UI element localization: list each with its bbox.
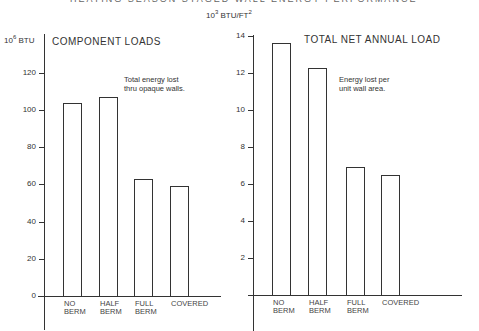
right-y-axis (253, 35, 254, 331)
category-label: NO BERM (64, 300, 86, 316)
y-tick-label: 4 (223, 216, 245, 225)
category-label: NO BERM (273, 299, 295, 315)
bar-full-berm (346, 167, 365, 295)
unit-text: BTU (16, 36, 34, 45)
y-tick (248, 147, 253, 148)
y-tick (248, 221, 253, 222)
y-tick-label: 40 (14, 217, 36, 226)
bar-half-berm (99, 97, 118, 296)
y-tick (248, 110, 253, 111)
annotation-line: Energy lost per (339, 75, 389, 84)
right-annotation: Energy lost per unit wall area. (339, 75, 389, 93)
left-y-axis (44, 34, 45, 330)
category-label: COVERED (171, 300, 208, 308)
right-x-axis (248, 295, 462, 296)
y-tick (39, 73, 44, 74)
category-label: HALF BERM (100, 300, 122, 316)
y-tick-label: 100 (14, 105, 36, 114)
bar-no-berm (63, 103, 82, 296)
right-chart-title: TOTAL NET ANNUAL LOAD (304, 34, 440, 45)
bar-covered (381, 175, 400, 295)
y-tick-label: 8 (223, 142, 245, 151)
left-y-unit: 106 BTU (4, 34, 34, 45)
category-label: HALF BERM (309, 299, 331, 315)
left-chart-title: COMPONENT LOADS (52, 36, 161, 47)
y-tick-label: 6 (223, 179, 245, 188)
y-tick-label: 20 (14, 254, 36, 263)
y-tick (248, 258, 253, 259)
left-annotation: Total energy lost thru opaque walls. (124, 75, 185, 93)
bar-half-berm (308, 68, 327, 295)
right-y-unit: 103 BTU/FT2 (206, 9, 252, 20)
category-label: FULL BERM (135, 300, 157, 316)
bar-no-berm (272, 43, 291, 295)
y-tick (39, 222, 44, 223)
y-tick (248, 184, 253, 185)
unit-base: 10 (4, 36, 13, 45)
y-tick-label: 2 (223, 253, 245, 262)
category-label: COVERED (382, 299, 419, 307)
y-tick-label: 0 (14, 291, 36, 300)
y-tick-label: 10 (223, 105, 245, 114)
y-tick-label: 120 (14, 68, 36, 77)
y-tick (39, 147, 44, 148)
y-tick (39, 110, 44, 111)
unit-exponent: 2 (248, 9, 251, 15)
bar-full-berm (134, 179, 153, 296)
unit-text: BTU/FT (218, 11, 248, 20)
left-x-axis (38, 296, 221, 297)
annotation-line: Total energy lost (124, 75, 185, 84)
category-label: FULL BERM (347, 299, 369, 315)
y-tick (39, 296, 44, 297)
bar-covered (170, 186, 189, 296)
y-tick (248, 36, 253, 37)
y-tick (39, 184, 44, 185)
figure-title: HEATING SEASON STAGED WALL ENERGY PERFOR… (70, 0, 417, 4)
y-tick (248, 73, 253, 74)
annotation-line: unit wall area. (339, 84, 389, 93)
annotation-line: thru opaque walls. (124, 84, 185, 93)
y-tick-label: 12 (223, 68, 245, 77)
y-tick (39, 259, 44, 260)
y-tick-label: 60 (14, 179, 36, 188)
y-tick-label: 14 (223, 31, 245, 40)
y-tick-label: 80 (14, 142, 36, 151)
unit-base: 10 (206, 11, 215, 20)
